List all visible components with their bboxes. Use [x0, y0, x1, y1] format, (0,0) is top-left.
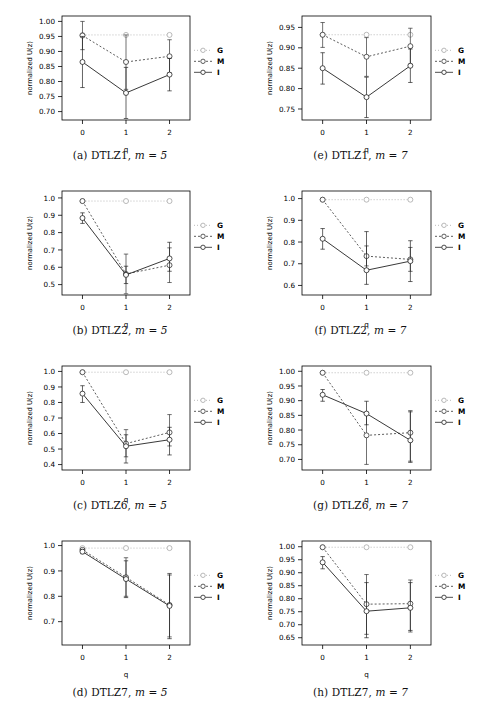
y-axis-tick-label: 0.4	[44, 460, 56, 469]
series-G	[80, 199, 172, 204]
y-axis-tick-label: 0.80	[279, 84, 295, 93]
data-point-I	[320, 236, 325, 241]
y-axis-tick-label: 0.70	[279, 455, 295, 464]
panel-chart-h: 0.650.700.750.800.850.900.951.00012qnorm…	[240, 525, 481, 712]
y-axis-tick-label: 0.80	[279, 426, 295, 435]
y-axis-tick-label: 0.95	[39, 32, 55, 41]
panel-caption-f: (f) DTLZ2, m = 7	[240, 324, 481, 336]
caption-m-value: m = 5	[135, 686, 168, 698]
data-point-G	[167, 370, 172, 375]
x-axis-title: q	[124, 670, 129, 679]
data-point-I	[167, 256, 172, 261]
y-axis-title: normalized U(z)	[266, 216, 274, 270]
legend-label-G: G	[458, 46, 464, 55]
caption-label: (b) DTLZ2,	[72, 324, 134, 336]
series-I	[320, 229, 413, 285]
data-point-M	[80, 370, 85, 375]
y-axis-tick-label: 1.00	[279, 542, 295, 551]
legend-marker-I	[442, 245, 446, 249]
y-axis-title: normalized U(z)	[26, 216, 34, 270]
data-point-M	[80, 199, 85, 204]
data-point-I	[408, 63, 413, 68]
data-point-I	[80, 59, 85, 64]
legend: GMI	[435, 571, 465, 602]
data-point-G	[408, 545, 413, 550]
data-point-M	[320, 197, 325, 202]
legend-marker-G	[442, 573, 446, 577]
y-axis-tick-label: 0.5	[44, 445, 55, 454]
legend-marker-M	[201, 409, 205, 413]
panel-e: 0.750.800.850.900.95012qnormalized U(z)G…	[240, 0, 481, 175]
y-axis-tick-label: 0.75	[279, 105, 295, 114]
panel-caption-g: (g) DTLZ6, m = 7	[240, 499, 481, 511]
data-point-I	[124, 90, 129, 95]
x-axis-tick-label: 1	[364, 478, 369, 487]
data-point-I	[124, 272, 129, 277]
x-axis-tick-label: 0	[320, 128, 325, 137]
x-axis-tick-label: 1	[364, 128, 369, 137]
y-axis-tick-label: 0.95	[279, 23, 295, 32]
series-G	[320, 370, 413, 375]
y-axis-tick-label: 0.95	[279, 555, 295, 564]
y-axis-tick-label: 0.75	[279, 607, 295, 616]
y-axis-tick-label: 0.7	[284, 259, 295, 268]
data-point-I	[167, 437, 172, 442]
legend-marker-I	[442, 70, 446, 74]
y-axis-tick-label: 1.0	[44, 541, 56, 550]
x-axis-tick-label: 1	[124, 478, 129, 487]
data-point-M	[320, 32, 325, 37]
caption-label: (e) DTLZ1,	[313, 149, 375, 161]
legend-label-I: I	[458, 68, 461, 77]
legend-marker-M	[201, 584, 205, 588]
data-point-G	[124, 199, 129, 204]
panel-caption-a: (a) DTLZ1, m = 5	[0, 149, 240, 161]
data-point-M	[167, 54, 172, 59]
data-point-I	[80, 391, 85, 396]
data-point-M	[124, 59, 129, 64]
panel-caption-b: (b) DTLZ2, m = 5	[0, 324, 240, 336]
x-axis-tick-label: 0	[320, 478, 325, 487]
data-point-M	[408, 44, 413, 49]
caption-m-value: m = 5	[135, 149, 168, 161]
y-axis-tick-label: 0.70	[279, 620, 295, 629]
series-I	[80, 213, 172, 284]
figure-panel-grid: 0.700.750.800.850.900.951.00012qnormaliz…	[0, 0, 481, 712]
legend-label-M: M	[217, 57, 224, 66]
caption-label: (a) DTLZ1,	[73, 149, 135, 161]
panel-caption-d: (d) DTLZ7, m = 5	[0, 686, 240, 698]
data-point-M	[364, 433, 369, 438]
y-axis-tick-label: 1.00	[279, 367, 295, 376]
caption-m-value: m = 5	[135, 324, 168, 336]
y-axis-tick-label: 0.85	[39, 62, 55, 71]
data-point-M	[320, 545, 325, 550]
y-axis-tick-label: 0.6	[284, 281, 296, 290]
data-point-I	[364, 411, 369, 416]
legend-marker-I	[201, 245, 205, 249]
legend-marker-G	[442, 223, 446, 227]
legend-marker-M	[442, 584, 446, 588]
x-axis-tick-label: 1	[124, 128, 129, 137]
legend-label-I: I	[217, 593, 220, 602]
legend-label-G: G	[217, 221, 223, 230]
x-axis-tick-label: 2	[167, 303, 172, 312]
y-axis-tick-label: 0.85	[279, 581, 295, 590]
data-point-G	[167, 546, 172, 551]
x-axis-tick-label: 0	[320, 653, 325, 662]
data-point-G	[124, 370, 129, 375]
x-axis-tick-label: 2	[167, 478, 172, 487]
data-point-I	[80, 216, 85, 221]
y-axis-tick-label: 0.90	[279, 396, 295, 405]
caption-label: (c) DTLZ6,	[73, 499, 135, 511]
legend-marker-M	[442, 59, 446, 63]
series-G	[320, 545, 413, 550]
caption-label: (g) DTLZ6,	[313, 499, 375, 511]
data-point-G	[124, 546, 129, 551]
x-axis-tick-label: 1	[124, 653, 129, 662]
y-axis-tick-label: 0.90	[39, 47, 55, 56]
data-point-G	[167, 32, 172, 37]
series-G	[320, 32, 413, 37]
legend-label-G: G	[458, 396, 464, 405]
y-axis-tick-label: 0.85	[279, 64, 295, 73]
panel-b: 0.50.60.70.80.91.0012qnormalized U(z)GMI…	[0, 175, 240, 350]
y-axis-tick-label: 0.5	[44, 280, 55, 289]
